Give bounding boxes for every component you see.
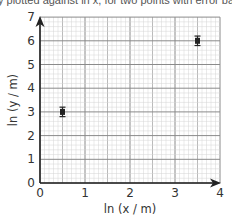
x-tick-label: 4	[216, 186, 224, 200]
x-axis-label: ln (x / m)	[104, 202, 156, 216]
y-tick-label: 5	[27, 58, 35, 72]
y-tick-label: 4	[27, 81, 35, 95]
scatter-chart: 0123401234567ln (x / m)ln (y / m)	[0, 0, 232, 224]
y-axis-label: ln (y / m)	[6, 74, 20, 126]
y-tick-label: 6	[27, 34, 35, 48]
y-tick-label: 1	[27, 152, 35, 166]
y-tick-label: 0	[27, 176, 35, 190]
data-point	[195, 38, 200, 44]
x-tick-label: 3	[171, 186, 179, 200]
data-point	[60, 109, 65, 115]
y-tick-label: 3	[27, 105, 35, 119]
y-tick-label: 2	[27, 129, 35, 143]
x-tick-label: 1	[81, 186, 89, 200]
x-tick-label: 2	[126, 186, 134, 200]
x-tick-label: 0	[36, 186, 44, 200]
y-tick-label: 7	[27, 10, 35, 24]
